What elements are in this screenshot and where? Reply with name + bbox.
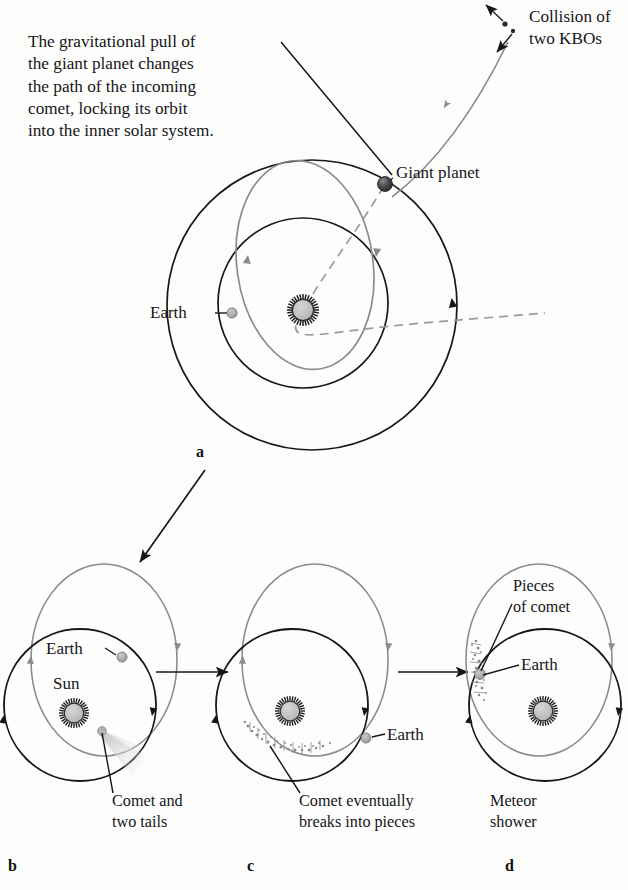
sun-disk-c xyxy=(280,701,300,721)
earth-label-c: Earth xyxy=(387,725,424,745)
sun-disk-d xyxy=(533,701,553,721)
panel-b-graphics xyxy=(0,564,181,793)
gravitational-pull-annotation: The gravitational pull of the giant plan… xyxy=(28,31,288,143)
sun-c xyxy=(275,696,305,726)
earth-label-b: Earth xyxy=(46,639,83,659)
sun-d xyxy=(528,696,558,726)
earth-marker-d xyxy=(475,669,486,680)
kbo-arrow-up xyxy=(486,5,503,21)
comet-orbit-d-arrow-r xyxy=(607,643,615,651)
sun-a xyxy=(287,294,319,326)
arrow-a-to-b xyxy=(140,470,205,562)
sun-disk-a xyxy=(292,299,313,320)
incoming-comet-arrow xyxy=(441,100,451,111)
collision-annotation: Collision of two KBOs xyxy=(529,6,628,51)
comet-orbit-c-arrow-r xyxy=(384,643,392,651)
earth-label-a: Earth xyxy=(150,303,187,323)
earth-leader-c xyxy=(372,734,385,737)
sun-b xyxy=(59,698,89,728)
figure-canvas: The gravitational pull of the giant plan… xyxy=(0,0,628,890)
giant-planet-orbit-arrow xyxy=(447,297,457,308)
giant-planet-marker xyxy=(378,177,393,192)
meteor-shower-caption-d: Meteor shower xyxy=(490,791,600,832)
panel-c-graphics xyxy=(211,564,392,793)
comet-orbit-b-arrow-l xyxy=(27,656,35,664)
panel-letter-b: b xyxy=(8,857,17,875)
earth-label-d: Earth xyxy=(521,655,558,675)
earth-orbit-d-arrow-r xyxy=(614,707,623,716)
kbo-body-2 xyxy=(511,29,515,33)
panel-letter-a: a xyxy=(196,443,204,461)
comet-breakup-caption-c: Comet eventually breaks into pieces xyxy=(299,791,479,832)
kbo-collision-group xyxy=(486,5,515,52)
panel-letter-d: d xyxy=(505,857,514,875)
earth-leader-d xyxy=(483,665,519,675)
comet-orbit-arrow-left xyxy=(243,254,252,264)
gravitational-pull-leader xyxy=(281,42,392,175)
comet-orbit-c-arrow-l xyxy=(239,656,247,664)
earth-leader-b xyxy=(105,648,116,655)
sun-label-b: Sun xyxy=(53,674,79,694)
comet-orbit-b-arrow-r xyxy=(173,643,181,651)
pieces-leader-d xyxy=(481,604,512,671)
earth-marker-a xyxy=(227,308,237,318)
comet-tails-caption-b: Comet and two tails xyxy=(112,791,232,832)
pieces-of-comet-label-d: Pieces of comet xyxy=(513,576,623,617)
panel-letter-c: c xyxy=(247,857,254,875)
sun-disk-b xyxy=(64,703,84,723)
comet-orbit-c xyxy=(242,564,388,756)
kbo-body-1 xyxy=(502,21,507,26)
giant-planet-label: Giant planet xyxy=(396,163,480,183)
comet-captured-orbit xyxy=(223,152,387,379)
earth-marker-b xyxy=(117,652,127,662)
earth-marker-c xyxy=(361,733,371,743)
